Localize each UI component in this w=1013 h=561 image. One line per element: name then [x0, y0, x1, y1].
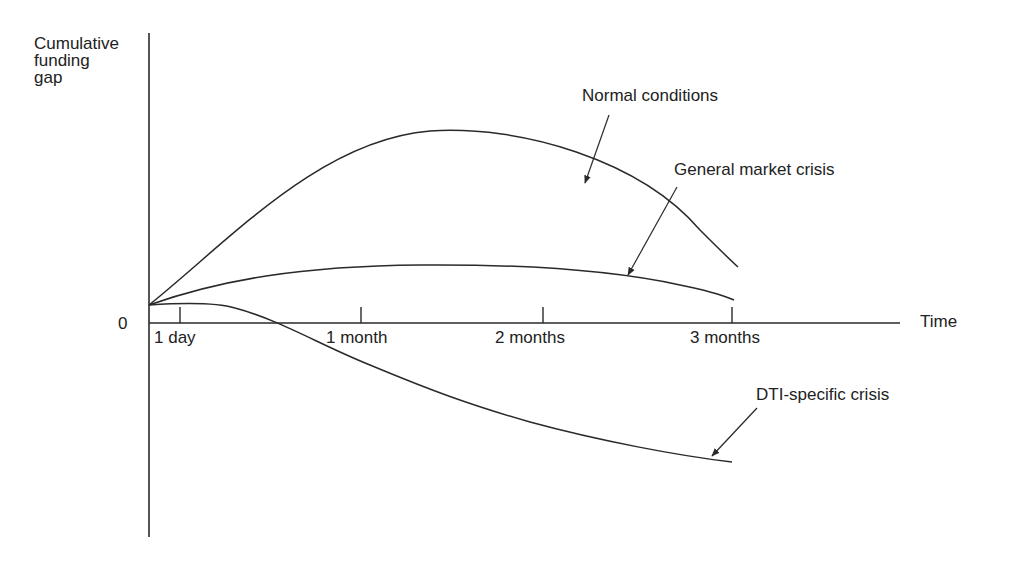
annotation-general-market-crisis: General market crisis [674, 160, 835, 180]
funding-gap-chart [0, 0, 1013, 561]
annotation-normal-conditions: Normal conditions [582, 86, 718, 106]
annotation-dti-specific-crisis: DTI-specific crisis [756, 385, 889, 405]
y-axis-label: Cumulative funding gap [34, 35, 119, 86]
x-axis-label: Time [920, 312, 957, 332]
pointer-general-market-crisis [628, 187, 677, 275]
tick-label-3-months: 3 months [690, 328, 760, 348]
y-axis-label-line-2: funding [34, 52, 119, 69]
y-axis-label-line-1: Cumulative [34, 35, 119, 52]
tick-label-1-month: 1 month [326, 328, 387, 348]
y-zero-label: 0 [118, 314, 127, 334]
pointer-normal-conditions [585, 115, 609, 183]
tick-label-2-months: 2 months [495, 328, 565, 348]
series-general-market-crisis [149, 265, 734, 305]
y-axis-label-line-3: gap [34, 69, 119, 86]
pointer-dti-specific-crisis [712, 408, 757, 456]
tick-label-1-day: 1 day [154, 328, 196, 348]
series-dti-specific-crisis [149, 303, 732, 462]
